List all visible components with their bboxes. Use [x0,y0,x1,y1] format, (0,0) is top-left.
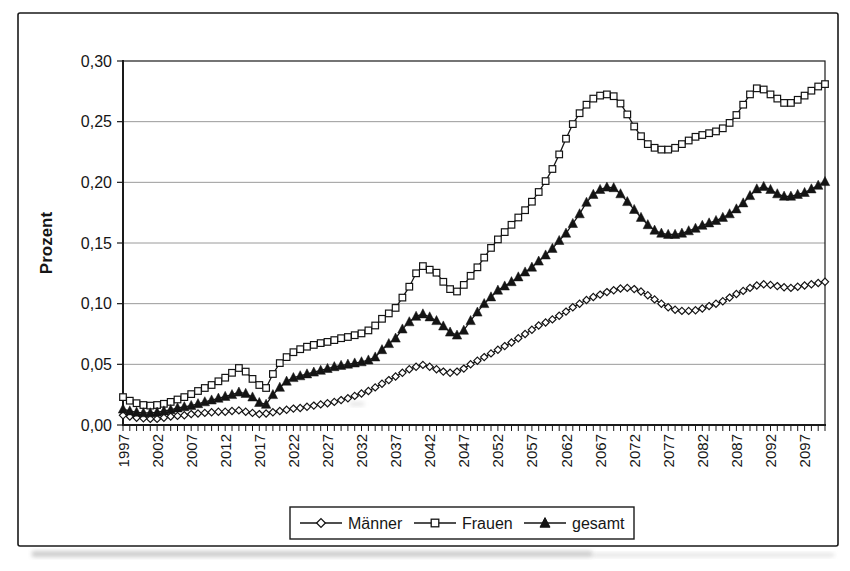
svg-text:2062: 2062 [558,434,575,467]
svg-text:2082: 2082 [694,434,711,467]
legend-box: Männer Frauen gesamt [290,507,634,539]
square-marker-icon [431,519,439,527]
svg-text:0,10: 0,10 [81,295,112,312]
svg-text:2052: 2052 [489,434,506,467]
svg-text:0,05: 0,05 [81,356,112,373]
legend-label-gesamt: gesamt [572,515,625,532]
svg-text:2032: 2032 [353,434,370,467]
chart-svg: 0,000,050,100,150,200,250,30199720022007… [0,0,850,571]
svg-text:2047: 2047 [455,434,472,467]
svg-text:0,25: 0,25 [81,113,112,130]
svg-text:1997: 1997 [115,434,132,467]
svg-text:2097: 2097 [796,434,813,467]
svg-text:2007: 2007 [183,434,200,467]
svg-text:2022: 2022 [285,434,302,467]
svg-text:2042: 2042 [421,434,438,467]
svg-text:2067: 2067 [592,434,609,467]
svg-text:0,15: 0,15 [81,235,112,252]
svg-text:2027: 2027 [319,434,336,467]
scanned-chart-page: 0,000,050,100,150,200,250,30199720022007… [0,0,850,571]
svg-text:2037: 2037 [387,434,404,467]
legend-label-frauen: Frauen [462,515,513,532]
svg-text:2087: 2087 [728,434,745,467]
svg-text:2002: 2002 [149,434,166,467]
svg-text:0,20: 0,20 [81,174,112,191]
svg-text:2072: 2072 [626,434,643,467]
svg-text:2077: 2077 [660,434,677,467]
svg-text:2012: 2012 [217,434,234,467]
svg-text:0,30: 0,30 [81,53,112,70]
legend-label-maenner: Männer [348,515,403,532]
svg-text:2092: 2092 [762,434,779,467]
svg-text:2017: 2017 [251,434,268,467]
svg-text:2057: 2057 [523,434,540,467]
svg-text:0,00: 0,00 [81,417,112,434]
y-axis-title: Prozent [37,211,56,274]
